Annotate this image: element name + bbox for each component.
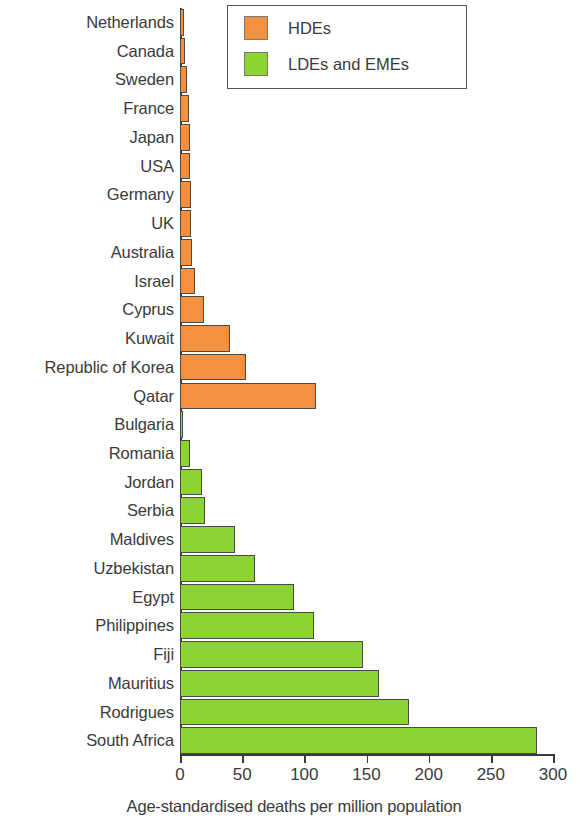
bar-row — [180, 468, 553, 497]
bar — [180, 153, 190, 180]
x-axis-tick — [553, 754, 555, 763]
y-axis-label: Mauritius — [0, 669, 174, 698]
bar-row — [180, 123, 553, 152]
bar-row — [180, 496, 553, 525]
y-axis-category-labels: NetherlandsCanadaSwedenFranceJapanUSAGer… — [0, 8, 174, 755]
bar — [180, 296, 204, 323]
y-axis-label: Egypt — [0, 583, 174, 612]
y-axis-label: Romania — [0, 439, 174, 468]
y-axis-label: USA — [0, 152, 174, 181]
y-axis-label: Bulgaria — [0, 410, 174, 439]
x-axis-tick-label: 300 — [523, 765, 583, 785]
x-axis-tick — [367, 754, 369, 763]
y-axis-label: Rodrigues — [0, 698, 174, 727]
bar — [180, 95, 189, 122]
bar — [180, 411, 183, 438]
x-axis-tick — [429, 754, 431, 763]
x-axis-tick-label: 50 — [212, 765, 272, 785]
y-axis-label: Japan — [0, 123, 174, 152]
bar — [180, 612, 314, 639]
bar-row — [180, 295, 553, 324]
bar-row — [180, 669, 553, 698]
y-axis-label: Uzbekistan — [0, 554, 174, 583]
bar-row — [180, 209, 553, 238]
y-axis-label: Jordan — [0, 468, 174, 497]
legend-label-ldes-emes: LDEs and EMEs — [288, 55, 409, 74]
bar-row — [180, 611, 553, 640]
bar — [180, 526, 235, 553]
y-axis-label: Kuwait — [0, 324, 174, 353]
bar — [180, 584, 294, 611]
x-axis-title: Age-standardised deaths per million popu… — [0, 797, 588, 816]
bar-row — [180, 94, 553, 123]
bar — [180, 268, 195, 295]
bar — [180, 497, 205, 524]
bar-row — [180, 267, 553, 296]
y-axis-label: Qatar — [0, 382, 174, 411]
bar — [180, 239, 192, 266]
legend-item-ldes-emes: LDEs and EMEs — [244, 50, 409, 78]
x-axis-tick — [491, 754, 493, 763]
bar — [180, 383, 316, 410]
y-axis-label: Netherlands — [0, 8, 174, 37]
y-axis-label: South Africa — [0, 726, 174, 755]
bar-row — [180, 238, 553, 267]
bar — [180, 727, 537, 754]
y-axis-label: Israel — [0, 267, 174, 296]
bar — [180, 555, 255, 582]
bar-row — [180, 180, 553, 209]
bar — [180, 124, 190, 151]
x-axis-tick-label: 100 — [274, 765, 334, 785]
y-axis-label: Australia — [0, 238, 174, 267]
bar-row — [180, 525, 553, 554]
y-axis-label: Sweden — [0, 65, 174, 94]
bar-row — [180, 726, 553, 755]
bar — [180, 469, 202, 496]
y-axis-label: France — [0, 94, 174, 123]
bar — [180, 325, 230, 352]
y-axis-label: Philippines — [0, 611, 174, 640]
legend-swatch-ldes-emes — [244, 52, 268, 76]
bar — [180, 699, 409, 726]
y-axis-label: UK — [0, 209, 174, 238]
x-axis-tick — [242, 754, 244, 763]
bar-row — [180, 382, 553, 411]
bar — [180, 641, 363, 668]
bar — [180, 181, 191, 208]
bar-row — [180, 640, 553, 669]
legend-item-hdes: HDEs — [244, 14, 331, 42]
y-axis-label: Serbia — [0, 496, 174, 525]
x-axis-tick-label: 0 — [150, 765, 210, 785]
bar-chart: NetherlandsCanadaSwedenFranceJapanUSAGer… — [0, 0, 588, 829]
y-axis-label: Germany — [0, 180, 174, 209]
x-axis-tick-label: 250 — [461, 765, 521, 785]
y-axis-label: Cyprus — [0, 295, 174, 324]
x-axis-tick-label: 150 — [337, 765, 397, 785]
y-axis-label: Maldives — [0, 525, 174, 554]
bar-row — [180, 554, 553, 583]
y-axis-label: Fiji — [0, 640, 174, 669]
bar — [180, 670, 379, 697]
bar-row — [180, 152, 553, 181]
bar-row — [180, 698, 553, 727]
bar — [180, 354, 246, 381]
bar — [180, 9, 184, 36]
legend-label-hdes: HDEs — [288, 19, 331, 38]
bar-row — [180, 439, 553, 468]
bar-row — [180, 324, 553, 353]
bar — [180, 38, 185, 65]
legend-swatch-hdes — [244, 16, 268, 40]
y-axis-label: Canada — [0, 37, 174, 66]
bar — [180, 440, 190, 467]
bar — [180, 66, 187, 93]
x-axis-tick — [304, 754, 306, 763]
bar — [180, 210, 191, 237]
plot-area — [180, 8, 553, 755]
x-axis-tick-label: 200 — [399, 765, 459, 785]
bar-row — [180, 410, 553, 439]
x-axis-tick — [180, 754, 182, 763]
y-axis-label: Republic of Korea — [0, 353, 174, 382]
chart-legend: HDEs LDEs and EMEs — [227, 5, 467, 89]
bar-row — [180, 353, 553, 382]
bar-row — [180, 583, 553, 612]
